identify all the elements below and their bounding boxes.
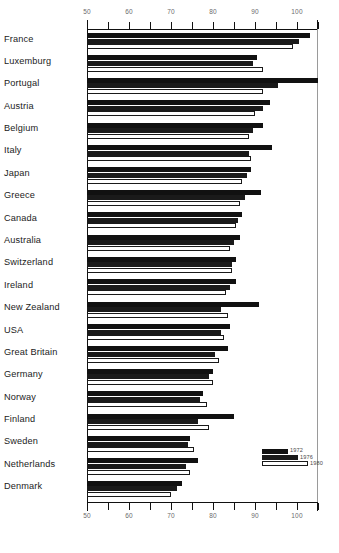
legend-swatch-1980 xyxy=(262,461,308,466)
x-axis-tick-label: 50 xyxy=(83,8,91,15)
bar-1980 xyxy=(87,268,232,273)
bar-1980 xyxy=(87,425,209,430)
bar-chart: 5060708090100 FranceLuxemburgPortugalAus… xyxy=(0,0,339,553)
x-axis-tick-label: 70 xyxy=(167,8,175,15)
legend-swatch-1972 xyxy=(262,449,288,454)
legend-label-1980: 1980 xyxy=(310,460,323,466)
bar-1976 xyxy=(87,240,234,245)
axis-tick xyxy=(213,22,214,29)
bar-group xyxy=(87,190,318,206)
bar-1980 xyxy=(87,67,263,72)
bar-1976 xyxy=(87,39,299,44)
axis-end-cap xyxy=(87,502,88,511)
bar-1972 xyxy=(87,235,240,240)
legend-label-1976: 1976 xyxy=(300,454,313,460)
x-axis-tick-label: 60 xyxy=(125,512,133,519)
axis-tick xyxy=(318,503,319,510)
bar-1972 xyxy=(87,100,270,105)
bar-1972 xyxy=(87,346,228,351)
bar-1976 xyxy=(87,106,263,111)
bar-1972 xyxy=(87,414,234,419)
category-label: Australia xyxy=(4,235,75,245)
axis-tick xyxy=(318,22,319,29)
bar-group xyxy=(87,212,318,228)
bar-1976 xyxy=(87,307,221,312)
bar-1980 xyxy=(87,402,207,407)
bar-1980 xyxy=(87,156,251,161)
bar-1972 xyxy=(87,167,251,172)
chart-legend: 197219761980 xyxy=(262,449,334,477)
x-axis-tick-label: 50 xyxy=(83,512,91,519)
axis-rail-bottom xyxy=(87,502,318,503)
category-label: Netherlands xyxy=(4,459,75,469)
bar-1976 xyxy=(87,83,278,88)
bar-1980 xyxy=(87,470,190,475)
bar-group xyxy=(87,302,318,318)
bar-1976 xyxy=(87,61,253,66)
axis-tick xyxy=(171,503,172,510)
bar-1972 xyxy=(87,436,190,441)
axis-tick xyxy=(129,22,130,29)
legend-label-1972: 1972 xyxy=(290,447,303,453)
plot-area xyxy=(87,30,318,500)
bar-1972 xyxy=(87,458,198,463)
bar-1972 xyxy=(87,279,236,284)
bar-1976 xyxy=(87,486,177,491)
axis-tick xyxy=(192,503,193,510)
bar-group xyxy=(87,279,318,295)
bar-group xyxy=(87,481,318,497)
bar-1976 xyxy=(87,330,221,335)
x-axis-tick-label: 70 xyxy=(167,512,175,519)
bar-1972 xyxy=(87,324,230,329)
x-axis-bottom xyxy=(87,502,318,512)
x-axis-tick-label: 90 xyxy=(251,512,259,519)
category-label: Germany xyxy=(4,369,75,379)
category-label: Great Britain xyxy=(4,347,75,357)
bar-group xyxy=(87,414,318,430)
bar-1972 xyxy=(87,123,263,128)
bar-1980 xyxy=(87,492,171,497)
category-label: Portugal xyxy=(4,78,75,88)
axis-tick xyxy=(297,22,298,29)
bar-1972 xyxy=(87,302,259,307)
bar-1972 xyxy=(87,55,257,60)
bar-group xyxy=(87,369,318,385)
axis-tick xyxy=(108,503,109,510)
category-label: Italy xyxy=(4,145,75,155)
axis-tick xyxy=(150,503,151,510)
bar-group xyxy=(87,100,318,116)
bar-1972 xyxy=(87,391,203,396)
axis-tick xyxy=(171,22,172,29)
category-label: Luxemburg xyxy=(4,56,75,66)
x-axis-top xyxy=(87,20,318,30)
bar-1980 xyxy=(87,111,255,116)
category-label: Norway xyxy=(4,392,75,402)
bar-1976 xyxy=(87,419,198,424)
axis-end-cap xyxy=(87,20,88,29)
bar-1976 xyxy=(87,195,245,200)
bar-1976 xyxy=(87,464,186,469)
category-label: France xyxy=(4,34,75,44)
axis-tick xyxy=(255,22,256,29)
category-label: Japan xyxy=(4,168,75,178)
category-label: Ireland xyxy=(4,280,75,290)
bar-1980 xyxy=(87,246,230,251)
category-label: Canada xyxy=(4,213,75,223)
category-label: Sweden xyxy=(4,436,75,446)
x-axis-tick-labels-top: 5060708090100 xyxy=(87,8,318,20)
bar-1980 xyxy=(87,134,249,139)
axis-tick xyxy=(192,22,193,29)
category-label: Denmark xyxy=(4,481,75,491)
bar-group xyxy=(87,257,318,273)
bar-group xyxy=(87,55,318,71)
axis-tick xyxy=(234,22,235,29)
axis-tick xyxy=(255,503,256,510)
bar-1972 xyxy=(87,212,242,217)
bar-1980 xyxy=(87,179,242,184)
bar-1972 xyxy=(87,190,261,195)
category-label: USA xyxy=(4,325,75,335)
x-axis-tick-label: 80 xyxy=(209,512,217,519)
category-label: Greece xyxy=(4,190,75,200)
legend-swatch-1976 xyxy=(262,455,298,460)
bar-1980 xyxy=(87,380,213,385)
